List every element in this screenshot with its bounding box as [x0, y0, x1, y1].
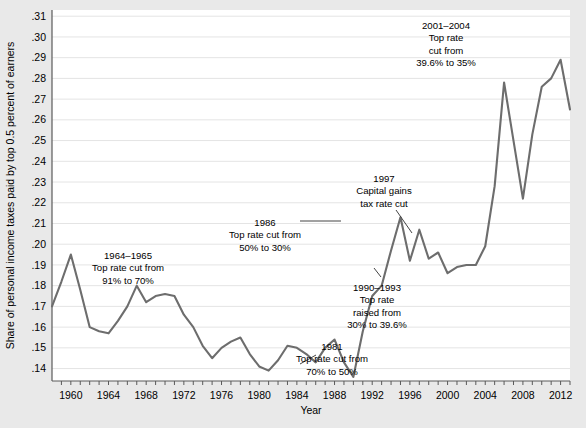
x-tick-label-1980: 1980 [248, 389, 272, 401]
x-tick-label-1992: 1992 [361, 389, 385, 401]
annotation-ann-1990: 1990–1993Top rateraised from30% to 39.6% [347, 282, 407, 330]
x-tick-label-1964: 1964 [97, 389, 121, 401]
annotation-line: Capital gains [356, 185, 412, 196]
annotation-line: Top rate cut from [92, 262, 164, 273]
y-tick-label-.15: .15 [31, 341, 46, 353]
annotation-line: raised from [353, 307, 401, 318]
y-tick-label-.20: .20 [31, 238, 46, 250]
annotation-line: cut from [429, 45, 464, 56]
y-tick-label-.22: .22 [31, 196, 46, 208]
y-tick-label-.27: .27 [31, 93, 46, 105]
y-tick-label-.31: .31 [31, 10, 46, 22]
annotation-line: 2001–2004 [422, 20, 471, 31]
y-tick-label-.16: .16 [31, 321, 46, 333]
x-tick-label-1968: 1968 [135, 389, 159, 401]
annotation-line: 1981 [321, 341, 342, 352]
x-tick-label-2012: 2012 [549, 389, 573, 401]
y-tick-label-.23: .23 [31, 176, 46, 188]
x-tick-label-1988: 1988 [323, 389, 347, 401]
annotation-line: 1964–1965 [104, 250, 152, 261]
x-tick-label-1972: 1972 [172, 389, 196, 401]
y-tick-label-.24: .24 [31, 155, 46, 167]
annotation-line: 50% to 30% [239, 242, 291, 253]
y-tick-label-.18: .18 [31, 279, 46, 291]
y-tick-label-.30: .30 [31, 31, 46, 43]
annotation-line: 1997 [373, 173, 394, 184]
y-tick-label-.21: .21 [31, 217, 46, 229]
y-tick-label-.25: .25 [31, 134, 46, 146]
x-axis-title: Year [300, 404, 322, 416]
x-tick-label-1976: 1976 [210, 389, 234, 401]
annotation-line: Top rate cut from [296, 353, 368, 364]
annotation-line: 30% to 39.6% [347, 319, 407, 330]
annotation-line: 70% to 50% [306, 366, 358, 377]
chart-figure: .14.15.16.17.18.19.20.21.22.23.24.25.26.… [0, 0, 586, 428]
y-tick-label-.19: .19 [31, 259, 46, 271]
y-tick-label-.26: .26 [31, 113, 46, 125]
y-axis-title: Share of personal income taxes paid by t… [4, 42, 16, 350]
annotation-line: Top rate [360, 294, 395, 305]
chart-canvas: .14.15.16.17.18.19.20.21.22.23.24.25.26.… [0, 0, 586, 428]
y-tick-label-.29: .29 [31, 51, 46, 63]
annotation-line: 39.6% to 35% [416, 57, 476, 68]
x-tick-label-1984: 1984 [285, 389, 309, 401]
annotation-line: 1986 [254, 217, 275, 228]
x-tick-label-1996: 1996 [398, 389, 422, 401]
annotation-line: 1990–1993 [353, 282, 401, 293]
annotation-line: 91% to 70% [102, 275, 154, 286]
annotation-line: Top rate cut from [229, 229, 301, 240]
annotation-line: Top rate [429, 32, 464, 43]
y-tick-label-.17: .17 [31, 300, 46, 312]
y-tick-label-.28: .28 [31, 72, 46, 84]
x-tick-label-2008: 2008 [511, 389, 535, 401]
x-tick-label-2004: 2004 [474, 389, 498, 401]
x-tick-label-2000: 2000 [436, 389, 460, 401]
annotation-line: tax rate cut [360, 198, 408, 209]
y-tick-label-.14: .14 [31, 362, 46, 374]
x-tick-label-1960: 1960 [59, 389, 83, 401]
